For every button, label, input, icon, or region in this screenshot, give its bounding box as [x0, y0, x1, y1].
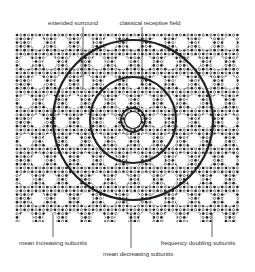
- label-classical-receptive-field: classical receptive field: [120, 19, 181, 26]
- label-mean-decreasing-subunits: mean decreasing subunits: [103, 250, 173, 257]
- label-frequency-doubling-subunits: frequency doubling subunits: [161, 239, 235, 246]
- receptive-field-diagram: [0, 0, 255, 272]
- label-extended-surround: extended surround: [48, 19, 98, 26]
- center-ring-inner: [125, 112, 142, 129]
- label-mean-increasing-subunits: mean increasing subunits: [19, 239, 87, 246]
